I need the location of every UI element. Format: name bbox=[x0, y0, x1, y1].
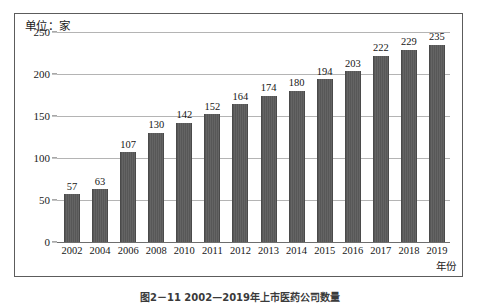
bar-value-label: 174 bbox=[261, 83, 277, 94]
bar[interactable]: 2222017 bbox=[373, 56, 389, 242]
bar-value-label: 63 bbox=[95, 177, 106, 188]
x-tick-label: 2015 bbox=[314, 246, 335, 257]
gridline bbox=[57, 116, 450, 117]
bar[interactable]: 1642012 bbox=[232, 104, 248, 242]
bar[interactable]: 572002 bbox=[64, 194, 80, 242]
gridline bbox=[57, 32, 450, 33]
x-axis-title: 年份 bbox=[436, 258, 456, 273]
bar[interactable]: 1072006 bbox=[120, 152, 136, 242]
y-tick-mark bbox=[52, 115, 57, 116]
figure-caption: 图2－11 2002—2019年上市医药公司数量 bbox=[0, 289, 480, 304]
x-tick-label: 2012 bbox=[230, 246, 251, 257]
bar[interactable]: 632004 bbox=[92, 189, 108, 242]
y-tick-label: 200 bbox=[34, 68, 51, 80]
bar-value-label: 130 bbox=[148, 120, 164, 131]
x-tick-label: 2013 bbox=[258, 246, 279, 257]
y-tick-label: 50 bbox=[39, 194, 50, 206]
gridline bbox=[57, 158, 450, 159]
bar-value-label: 194 bbox=[317, 67, 333, 78]
x-tick-label: 2011 bbox=[202, 246, 223, 257]
bar[interactable]: 1422010 bbox=[176, 123, 192, 242]
y-tick-mark bbox=[52, 241, 57, 242]
axis-baseline bbox=[57, 242, 450, 243]
bar[interactable]: 2352019 bbox=[429, 45, 445, 242]
bar-value-label: 57 bbox=[67, 182, 78, 193]
bar-value-label: 235 bbox=[429, 32, 445, 43]
gridline bbox=[57, 74, 450, 75]
bar[interactable]: 1302008 bbox=[148, 133, 164, 242]
bar[interactable]: 1802014 bbox=[289, 91, 305, 242]
bar-value-label: 152 bbox=[205, 102, 221, 113]
bar-value-label: 229 bbox=[401, 37, 417, 48]
bar-value-label: 164 bbox=[233, 92, 249, 103]
bar[interactable]: 1522011 bbox=[204, 114, 220, 242]
x-tick-label: 2006 bbox=[118, 246, 139, 257]
y-tick-mark bbox=[52, 199, 57, 200]
y-tick-label: 100 bbox=[34, 152, 51, 164]
bar[interactable]: 1742013 bbox=[261, 96, 277, 242]
bar-value-label: 222 bbox=[373, 43, 389, 54]
bar-value-label: 107 bbox=[120, 140, 136, 151]
y-tick-mark bbox=[52, 73, 57, 74]
y-tick-label: 150 bbox=[34, 110, 51, 122]
bar-value-label: 142 bbox=[176, 110, 192, 121]
gridline bbox=[57, 200, 450, 201]
x-tick-label: 2004 bbox=[90, 246, 111, 257]
bar[interactable]: 2032016 bbox=[345, 71, 361, 242]
x-tick-label: 2014 bbox=[286, 246, 307, 257]
x-tick-label: 2016 bbox=[342, 246, 363, 257]
x-tick-label: 2019 bbox=[426, 246, 447, 257]
x-tick-label: 2008 bbox=[146, 246, 167, 257]
x-tick-label: 2002 bbox=[62, 246, 83, 257]
y-tick-label: 0 bbox=[45, 236, 51, 248]
bar[interactable]: 2292018 bbox=[401, 50, 417, 242]
bar[interactable]: 1942015 bbox=[317, 79, 333, 242]
y-tick-label: 250 bbox=[34, 26, 51, 38]
y-tick-mark bbox=[52, 31, 57, 32]
bar-value-label: 203 bbox=[345, 59, 361, 70]
bar-value-label: 180 bbox=[289, 78, 305, 89]
y-tick-mark bbox=[52, 157, 57, 158]
chart-frame: 单位：家 05010015020025057200263200410720061… bbox=[14, 13, 463, 277]
x-tick-label: 2017 bbox=[370, 246, 391, 257]
plot-area: 0501001502002505720026320041072006130200… bbox=[57, 32, 450, 242]
x-tick-label: 2010 bbox=[174, 246, 195, 257]
x-tick-label: 2018 bbox=[398, 246, 419, 257]
